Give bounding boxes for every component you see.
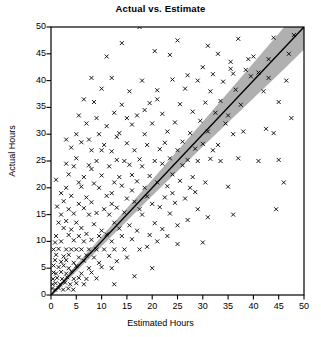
x-tick-label: 5: [64, 301, 88, 311]
y-tick-label: 35: [20, 101, 46, 111]
x-tick-label: 50: [292, 301, 316, 311]
x-axis-title: Estimated Hours: [0, 318, 321, 328]
y-tick-label: 30: [20, 128, 46, 138]
x-tick-label: 15: [115, 301, 139, 311]
y-axis-title: Actual Hours: [7, 106, 17, 196]
x-tick-label: 0: [39, 301, 63, 311]
y-tick-label: 25: [20, 155, 46, 165]
regression-line: [51, 27, 304, 295]
chart-figure: Actual vs. Estimate 05101520253035404550…: [0, 0, 321, 337]
x-tick-label: 20: [140, 301, 164, 311]
x-tick-label: 25: [166, 301, 190, 311]
y-tick-label: 0: [20, 289, 46, 299]
x-tick-label: 40: [241, 301, 265, 311]
y-tick-label: 45: [20, 48, 46, 58]
y-tick-label: 20: [20, 182, 46, 192]
x-tick-label: 35: [216, 301, 240, 311]
x-tick-label: 10: [90, 301, 114, 311]
x-tick-label: 30: [191, 301, 215, 311]
y-tick-label: 40: [20, 75, 46, 85]
x-tick-label: 45: [267, 301, 291, 311]
y-tick-label: 5: [20, 262, 46, 272]
y-tick-label: 15: [20, 209, 46, 219]
y-tick-label: 50: [20, 21, 46, 31]
scatter-plot-canvas: [0, 0, 321, 337]
y-tick-label: 10: [20, 235, 46, 245]
